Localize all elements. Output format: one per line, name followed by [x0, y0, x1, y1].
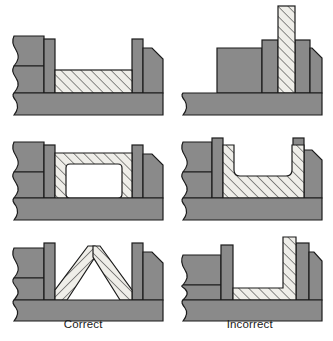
caption-cell-incorrect: Incorrect	[167, 313, 333, 335]
mold-left-block	[13, 248, 44, 278]
mold-left-block	[13, 36, 44, 66]
mold-left-block	[13, 142, 44, 172]
mold-wall-right	[132, 145, 143, 198]
mold-right-block	[143, 252, 163, 300]
mold-right-block	[304, 150, 322, 198]
mold-base-plate	[182, 198, 322, 220]
mold-left-lower	[13, 172, 44, 198]
mold-shoulder-left	[262, 40, 278, 93]
caption-row: Correct Incorrect	[0, 313, 333, 335]
mold-left-lower	[182, 172, 212, 198]
cast-section-flat	[55, 70, 132, 93]
mold-wall-right	[132, 243, 143, 300]
caption-correct: Correct	[64, 318, 103, 330]
mold-wall-right	[296, 243, 309, 300]
mold-body-left	[217, 48, 262, 93]
mold-shoulder-right	[295, 40, 310, 93]
section-views-svg	[0, 0, 333, 341]
mold-left-block	[182, 142, 212, 172]
mold-wall-left	[44, 39, 55, 93]
mold-wall-right	[132, 39, 143, 93]
mold-wall-left	[212, 138, 223, 198]
mold-left-lower	[182, 285, 221, 300]
mold-left-block	[182, 255, 221, 285]
mold-right-block	[309, 252, 322, 300]
mold-wall-left	[44, 145, 55, 198]
mold-wall-left	[44, 243, 55, 300]
caption-incorrect: Incorrect	[227, 318, 273, 330]
mold-left-lower	[13, 278, 44, 300]
mold-wall-left	[221, 245, 233, 300]
mold-left-lower	[13, 66, 44, 93]
casting-design-figure: Correct Incorrect	[0, 0, 333, 341]
caption-cell-correct: Correct	[0, 313, 167, 335]
mold-base-plate	[182, 93, 322, 115]
cast-section-tall-rib	[278, 6, 295, 93]
mold-base-plate	[13, 198, 163, 220]
mold-base-plate	[13, 93, 163, 115]
